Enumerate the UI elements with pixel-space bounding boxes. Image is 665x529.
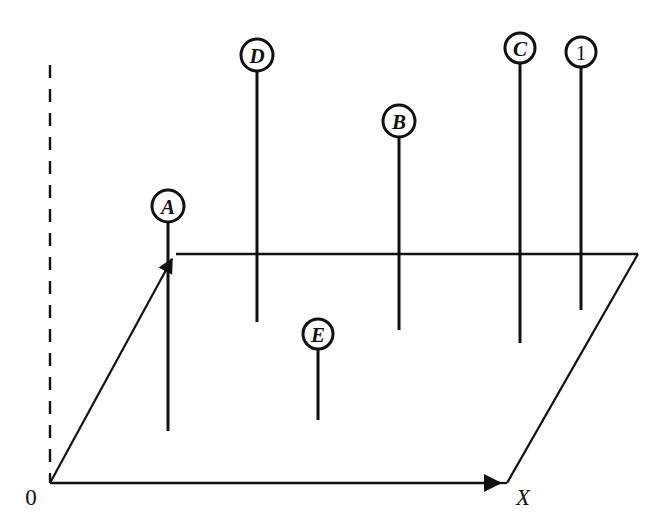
marker-e[interactable]: E [303, 319, 333, 420]
plane-right-edge [507, 254, 638, 483]
origin-label: 0 [25, 485, 37, 510]
diagram-svg: A D B C 1 E [0, 0, 665, 529]
marker-d[interactable]: D [241, 39, 273, 322]
marker-d-label: D [248, 44, 264, 68]
y-axis-depth-edge [50, 259, 172, 483]
marker-1[interactable]: 1 [566, 37, 596, 310]
marker-a-label: A [159, 195, 175, 219]
x-axis-label: X [515, 485, 531, 510]
diagram-canvas: A D B C 1 E [0, 0, 665, 529]
marker-e-label: E [310, 323, 325, 347]
marker-c[interactable]: C [505, 33, 535, 343]
marker-b[interactable]: B [383, 105, 415, 330]
marker-1-label: 1 [576, 41, 587, 65]
marker-c-label: C [513, 37, 528, 61]
marker-b-label: B [391, 110, 406, 134]
marker-a[interactable]: A [152, 190, 184, 431]
